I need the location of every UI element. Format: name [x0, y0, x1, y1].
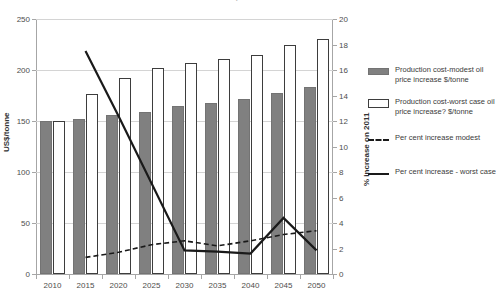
- right-tick-mark: [333, 223, 337, 224]
- x-axis-tick-label: 2050: [297, 281, 337, 290]
- right-axis-tick-label: 20: [339, 15, 348, 24]
- x-tick-mark: [135, 275, 136, 279]
- right-tick-mark: [333, 172, 337, 173]
- left-axis-tick-label: 250: [17, 15, 30, 24]
- legend-key: [368, 130, 390, 150]
- right-axis-tick-label: 4: [339, 219, 343, 228]
- line-modest: [86, 231, 317, 258]
- x-tick-mark: [69, 275, 70, 279]
- legend-key: [368, 94, 390, 114]
- x-tick-mark: [36, 275, 37, 279]
- right-axis-tick-label: 8: [339, 168, 343, 177]
- right-tick-mark: [333, 249, 337, 250]
- lines-layer: [36, 19, 333, 275]
- legend-item[interactable]: Per cent increase modest: [368, 130, 496, 150]
- right-axis-tick-label: 16: [339, 66, 348, 75]
- swatch-solid-icon: [368, 173, 389, 175]
- x-tick-mark: [234, 275, 235, 279]
- right-tick-mark: [333, 45, 337, 46]
- right-axis-tick-label: 18: [339, 40, 348, 49]
- swatch-white-icon: [368, 99, 389, 108]
- left-axis-tick-label: 100: [17, 168, 30, 177]
- legend-item[interactable]: Per cent increase - worst case: [368, 164, 496, 184]
- right-axis-tick-label: 14: [339, 91, 348, 100]
- legend-label: Per cent increase - worst case: [395, 164, 496, 177]
- legend-label: Per cent increase modest: [395, 130, 480, 143]
- legend-label: Production cost-worst case oil price inc…: [395, 94, 496, 117]
- right-axis-tick-label: 6: [339, 193, 343, 202]
- x-tick-mark: [102, 275, 103, 279]
- right-axis-tick-label: 0: [339, 270, 343, 279]
- swatch-dash-icon: [368, 139, 389, 141]
- right-tick-mark: [333, 198, 337, 199]
- plot-area: 050100150200250 02468101214161820 201020…: [36, 19, 333, 275]
- right-axis-tick-label: 10: [339, 142, 348, 151]
- left-axis-tick-label: 50: [21, 219, 30, 228]
- right-tick-mark: [333, 147, 337, 148]
- left-axis-tick-label: 200: [17, 66, 30, 75]
- legend-item[interactable]: Production cost-modest oil price increas…: [368, 62, 496, 85]
- x-tick-mark: [267, 275, 268, 279]
- right-tick-mark: [333, 96, 337, 97]
- right-axis-tick-label: 2: [339, 244, 343, 253]
- right-tick-mark: [333, 70, 337, 71]
- x-tick-mark: [168, 275, 169, 279]
- right-axis-tick-label: 12: [339, 117, 348, 126]
- legend-item[interactable]: Production cost-worst case oil price inc…: [368, 94, 496, 117]
- legend-key: [368, 62, 390, 82]
- x-tick-mark: [201, 275, 202, 279]
- legend-key: [368, 164, 390, 184]
- chart-root: Impact of ... US$/tonne % increase on 20…: [0, 0, 496, 302]
- left-axis-title: US$/tonne: [2, 112, 11, 152]
- right-tick-mark: [333, 121, 337, 122]
- x-tick-mark: [333, 275, 334, 279]
- left-axis-tick-label: 0: [26, 270, 30, 279]
- line-worst-case: [86, 51, 317, 254]
- left-axis-tick-label: 150: [17, 117, 30, 126]
- right-tick-mark: [333, 19, 337, 20]
- chart-title: Impact of ...: [0, 0, 496, 1]
- x-tick-mark: [300, 275, 301, 279]
- chart-legend: Production cost-modest oil price increas…: [368, 62, 496, 193]
- swatch-grey-icon: [368, 68, 389, 75]
- legend-label: Production cost-modest oil price increas…: [395, 62, 496, 85]
